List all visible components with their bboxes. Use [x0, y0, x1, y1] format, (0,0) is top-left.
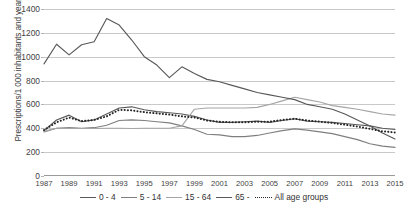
x-tick-label: 2005 — [257, 179, 283, 188]
legend-label: 65 - — [235, 192, 249, 202]
x-tick-label: 2009 — [307, 179, 333, 188]
x-tick-label: 1999 — [181, 179, 207, 188]
legend-swatch-line-icon — [121, 197, 137, 198]
x-tick-label: 1997 — [156, 179, 182, 188]
series-paths — [44, 9, 395, 176]
chart-legend: 0 - 45 - 1415 - 6465 -All age groups — [0, 192, 408, 202]
x-tick-label: 2015 — [382, 179, 408, 188]
x-tick-label: 2011 — [332, 179, 358, 188]
y-tick-label: 1200 — [14, 28, 40, 38]
y-tick-label: 400 — [14, 123, 40, 133]
x-tick-label: 2007 — [282, 179, 308, 188]
plot-area — [44, 9, 395, 176]
legend-label: 15 - 64 — [185, 192, 211, 202]
legend-swatch-dotted-icon — [255, 197, 272, 198]
x-tick-label: 2013 — [357, 179, 383, 188]
legend-item[interactable]: 0 - 4 — [80, 192, 116, 202]
legend-item[interactable]: All age groups — [255, 192, 329, 202]
series-line — [44, 120, 395, 147]
legend-swatch-line-icon — [80, 197, 96, 198]
y-tick-label: 200 — [14, 147, 40, 157]
legend-label: All age groups — [275, 192, 329, 202]
x-tick-label: 1989 — [56, 179, 82, 188]
series-line — [44, 97, 395, 131]
legend-item[interactable]: 65 - — [216, 192, 249, 202]
y-tick-label: 600 — [14, 99, 40, 109]
x-tick-label: 2003 — [232, 179, 258, 188]
legend-label: 5 - 14 — [140, 192, 161, 202]
line-chart: Prescriptions/1 000 inhabitants and year… — [0, 0, 408, 209]
x-tick-label: 1995 — [131, 179, 157, 188]
y-tick-label: 1400 — [14, 4, 40, 14]
y-tick-label: 800 — [14, 76, 40, 86]
legend-item[interactable]: 15 - 64 — [166, 192, 211, 202]
legend-item[interactable]: 5 - 14 — [121, 192, 161, 202]
x-tick-label: 1993 — [106, 179, 132, 188]
x-tick-label: 1987 — [31, 179, 57, 188]
legend-swatch-line-icon — [216, 197, 232, 198]
y-tick-mark — [41, 176, 44, 177]
legend-swatch-line-icon — [166, 197, 182, 198]
y-tick-label: 1000 — [14, 52, 40, 62]
x-tick-label: 1991 — [81, 179, 107, 188]
legend-label: 0 - 4 — [99, 192, 116, 202]
x-tick-label: 2001 — [207, 179, 233, 188]
